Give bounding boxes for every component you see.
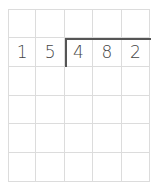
division-bracket-horizontal — [65, 38, 151, 40]
grid-cell — [65, 96, 93, 125]
grid-cell — [36, 9, 64, 38]
digit-cell: 1 — [8, 38, 36, 67]
digit-cell: 4 — [65, 38, 93, 67]
grid-cell — [8, 153, 36, 182]
grid-cell — [36, 153, 64, 182]
digit-cell: 5 — [36, 38, 64, 67]
grid-cell — [36, 124, 64, 153]
grid-cell — [8, 67, 36, 96]
grid-cell — [65, 9, 93, 38]
grid-cell — [93, 153, 121, 182]
grid-cell — [93, 9, 121, 38]
digit-cell: 2 — [122, 38, 150, 67]
grid-cell — [8, 96, 36, 125]
grid-cell — [122, 96, 150, 125]
grid-cell — [93, 124, 121, 153]
grid-cell — [36, 96, 64, 125]
grid-cell — [65, 124, 93, 153]
grid-cell — [122, 9, 150, 38]
digit-cell: 8 — [93, 38, 121, 67]
long-division-grid: 15482 — [8, 9, 150, 182]
grid-cell — [65, 67, 93, 96]
division-bracket-vertical — [65, 38, 67, 67]
grid-cell — [122, 67, 150, 96]
grid-cell — [122, 124, 150, 153]
grid-cell — [36, 67, 64, 96]
grid-cell — [8, 9, 36, 38]
grid-cell — [65, 153, 93, 182]
grid-cell — [122, 153, 150, 182]
grid-cell — [8, 124, 36, 153]
grid-cell — [93, 67, 121, 96]
grid-cell — [93, 96, 121, 125]
